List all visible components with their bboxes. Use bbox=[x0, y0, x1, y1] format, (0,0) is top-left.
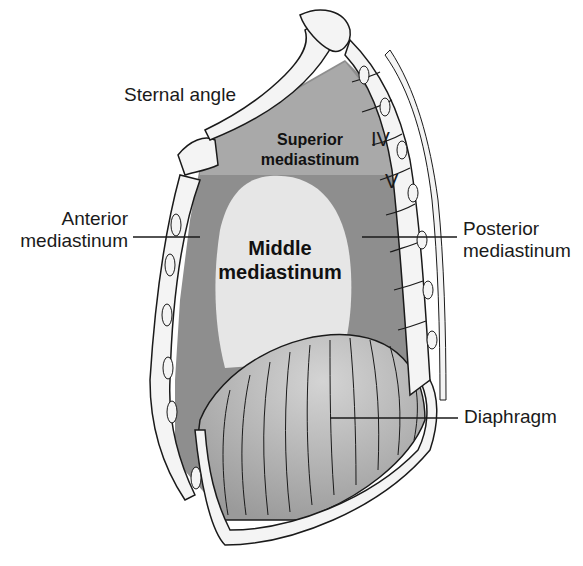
label-diaphragm: Diaphragm bbox=[464, 406, 557, 428]
label-middle-line1: Middle bbox=[210, 236, 350, 260]
label-anterior-line1: Anterior bbox=[0, 208, 128, 230]
label-superior-line2: mediastinum bbox=[240, 150, 380, 170]
label-middle-line2: mediastinum bbox=[210, 260, 350, 284]
label-vertebra-iv: IV bbox=[371, 128, 390, 150]
label-posterior-line1: Posterior bbox=[463, 218, 571, 240]
mediastinum-diagram: Sternal angle Superior mediastinum Anter… bbox=[0, 0, 583, 566]
label-posterior-line2: mediastinum bbox=[463, 240, 571, 262]
label-posterior-mediastinum: Posterior mediastinum bbox=[463, 218, 571, 262]
label-anterior-line2: mediastinum bbox=[0, 230, 128, 252]
label-middle-mediastinum: Middle mediastinum bbox=[210, 236, 350, 284]
label-sternal-angle: Sternal angle bbox=[124, 84, 236, 106]
label-superior-mediastinum: Superior mediastinum bbox=[240, 130, 380, 170]
label-anterior-mediastinum: Anterior mediastinum bbox=[0, 208, 128, 252]
label-vertebra-v: V bbox=[385, 170, 398, 192]
label-superior-line1: Superior bbox=[240, 130, 380, 150]
